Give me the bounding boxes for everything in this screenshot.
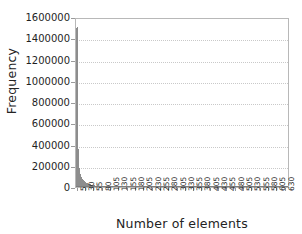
y-axis-tick-label: 0 — [64, 182, 70, 194]
y-axis-tick-mark — [71, 124, 75, 125]
y-axis-tick-label: 200000 — [32, 161, 70, 173]
y-axis-tick-label: 600000 — [32, 118, 70, 130]
y-axis-tick-mark — [71, 103, 75, 104]
y-axis-tick-label: 1000000 — [25, 76, 70, 88]
y-axis-tick-labels: 1600000140000012000001000000800000600000… — [18, 18, 70, 188]
y-axis-tick-label: 1400000 — [25, 33, 70, 45]
y-axis-tick-label: 400000 — [32, 140, 70, 152]
bar-series — [76, 19, 288, 187]
plot-area — [75, 18, 289, 188]
y-axis-tick-mark — [71, 146, 75, 147]
x-axis-title: Number of elements — [75, 216, 289, 231]
y-axis-tick-mark — [71, 39, 75, 40]
y-axis-tick-mark — [71, 188, 75, 189]
y-axis-tick-label: 1600000 — [25, 12, 70, 24]
y-axis-title-text: Frequency — [4, 48, 19, 114]
x-axis-tick-label: 280 — [171, 177, 179, 191]
x-axis-tick-label: 630 — [288, 177, 296, 191]
y-axis-tick-label: 800000 — [32, 97, 70, 109]
x-axis-tick-labels: 5305580105130155180205230255280305330355… — [75, 191, 289, 215]
y-axis-tick-mark — [71, 61, 75, 62]
y-axis-tick-mark — [71, 18, 75, 19]
y-axis-tick-mark — [71, 167, 75, 168]
y-axis-tick-label: 1200000 — [25, 55, 70, 67]
y-axis-tick-mark — [71, 82, 75, 83]
histogram-figure: Frequency 160000014000001200000100000080… — [0, 0, 302, 234]
